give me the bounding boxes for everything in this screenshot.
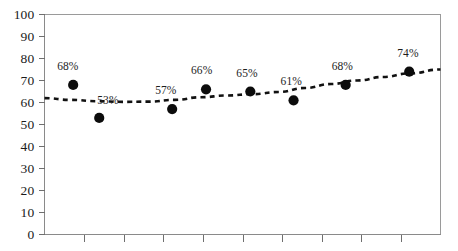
y-axis-tick-label: 60	[9, 96, 35, 110]
chart-plot-area	[0, 0, 458, 251]
data-point-value-label: 57%	[155, 84, 176, 96]
data-point-value-label: 66%	[191, 64, 212, 76]
y-axis-tick-label: 90	[9, 30, 35, 44]
data-point-marker	[167, 104, 177, 114]
data-point-value-label: 53%	[97, 94, 118, 106]
data-point-marker	[341, 80, 351, 90]
y-axis-tick-label: 10	[9, 206, 35, 220]
data-point-value-label: 68%	[57, 60, 78, 72]
data-point-marker	[94, 113, 104, 123]
data-point-value-label: 74%	[397, 47, 418, 59]
y-axis-tick-label: 70	[9, 74, 35, 88]
chart-container: 0102030405060708090100 68%53%57%66%65%61…	[0, 0, 458, 251]
y-axis-tick-label: 0	[9, 228, 35, 242]
y-axis-tick-label: 40	[9, 140, 35, 154]
plot-frame	[45, 15, 441, 235]
y-axis-tick-label: 50	[9, 118, 35, 132]
y-axis-tick-label: 100	[9, 8, 35, 22]
y-axis-ticks	[39, 15, 45, 235]
y-axis-tick-label: 80	[9, 52, 35, 66]
data-point-marker	[68, 80, 78, 90]
data-point-value-label: 61%	[281, 75, 302, 87]
y-axis-tick-label: 30	[9, 162, 35, 176]
data-point-marker	[404, 67, 414, 77]
x-axis-ticks	[85, 235, 402, 242]
data-point-value-label: 68%	[332, 60, 353, 72]
data-point-marker	[245, 86, 255, 96]
data-point-value-label: 65%	[236, 67, 257, 79]
data-point-marker	[288, 95, 298, 105]
data-point-marker	[201, 84, 211, 94]
y-axis-tick-label: 20	[9, 184, 35, 198]
